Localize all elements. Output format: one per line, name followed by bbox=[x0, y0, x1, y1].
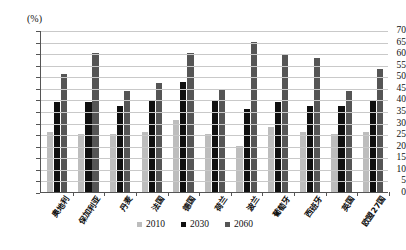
gridline bbox=[41, 31, 388, 32]
y-axis-tick-label: 65 bbox=[366, 38, 406, 48]
bar-2030 bbox=[117, 106, 123, 192]
y-axis-tick-mark bbox=[36, 89, 40, 90]
y-axis-tick-label: 55 bbox=[366, 61, 406, 71]
y-axis-tick-label: 5 bbox=[366, 176, 406, 186]
legend-swatch-icon bbox=[137, 222, 142, 227]
gridline bbox=[41, 54, 388, 55]
y-axis-tick-label: 35 bbox=[366, 107, 406, 117]
legend-item-2010[interactable]: 2010 bbox=[137, 219, 165, 229]
gridline bbox=[41, 43, 388, 44]
bar-2010 bbox=[300, 132, 306, 192]
bar-2060 bbox=[346, 91, 352, 192]
legend-label: 2060 bbox=[234, 219, 253, 229]
x-axis-label-0: 奥地利 bbox=[51, 195, 72, 220]
plot-area bbox=[40, 31, 388, 193]
y-axis-tick-label: 10 bbox=[366, 165, 406, 175]
y-axis-tick-mark bbox=[36, 54, 40, 55]
legend-label: 2030 bbox=[190, 219, 209, 229]
bar-2060 bbox=[219, 90, 225, 192]
x-axis-label-6: 波兰 bbox=[245, 195, 261, 213]
y-axis-tick-label: 70 bbox=[366, 26, 406, 36]
gridline bbox=[41, 170, 388, 171]
y-axis-tick-label: 40 bbox=[366, 95, 406, 105]
gridline bbox=[41, 181, 388, 182]
bar-2060 bbox=[124, 91, 130, 192]
y-axis-tick-mark bbox=[36, 77, 40, 78]
x-axis-label-1: 保加利亚 bbox=[78, 195, 103, 226]
gridline bbox=[41, 77, 388, 78]
x-axis-label-7: 葡萄牙 bbox=[272, 195, 293, 220]
y-axis-tick-mark bbox=[36, 135, 40, 136]
x-axis-label-4: 德国 bbox=[182, 195, 198, 213]
y-axis-tick-mark bbox=[36, 112, 40, 113]
x-axis-label-5: 荷兰 bbox=[214, 195, 230, 213]
bar-chart: (%) 0510152025303540455055606570 奥地利保加利亚… bbox=[0, 0, 406, 250]
gridline bbox=[41, 124, 388, 125]
y-axis-tick-mark bbox=[36, 66, 40, 67]
gridline bbox=[41, 89, 388, 90]
gridline bbox=[41, 135, 388, 136]
bar-2030 bbox=[180, 82, 186, 192]
y-axis-tick-mark bbox=[36, 31, 40, 32]
legend-swatch-icon bbox=[225, 222, 230, 227]
bar-2010 bbox=[110, 134, 116, 192]
gridline bbox=[41, 158, 388, 159]
y-axis-tick-mark bbox=[36, 100, 40, 101]
y-axis-tick-label: 50 bbox=[366, 72, 406, 82]
bar-2010 bbox=[47, 132, 53, 192]
bar-2010 bbox=[205, 134, 211, 192]
bar-2030 bbox=[338, 106, 344, 192]
y-axis-tick-mark bbox=[36, 158, 40, 159]
legend-label: 2010 bbox=[146, 219, 165, 229]
bar-2010 bbox=[142, 132, 148, 192]
y-axis-tick-label: 20 bbox=[366, 142, 406, 152]
x-axis-label-8: 西班牙 bbox=[304, 195, 325, 220]
legend-item-2060[interactable]: 2060 bbox=[225, 219, 253, 229]
y-axis-tick-mark bbox=[36, 124, 40, 125]
x-axis-label-10: 欧盟27国 bbox=[361, 195, 388, 229]
y-axis-tick-mark bbox=[36, 43, 40, 44]
gridline bbox=[41, 147, 388, 148]
bar-2030 bbox=[307, 106, 313, 192]
y-axis-tick-label: 30 bbox=[366, 119, 406, 129]
bar-2030 bbox=[244, 109, 250, 192]
x-axis-label-9: 英国 bbox=[340, 195, 356, 213]
legend-item-2030[interactable]: 2030 bbox=[181, 219, 209, 229]
gridline bbox=[41, 112, 388, 113]
y-axis-tick-label: 45 bbox=[366, 84, 406, 94]
y-axis-tick-mark bbox=[36, 181, 40, 182]
y-axis-tick-mark bbox=[36, 147, 40, 148]
gridline bbox=[41, 66, 388, 67]
bar-2010 bbox=[78, 134, 84, 192]
y-axis-tick-label: 25 bbox=[366, 130, 406, 140]
bar-2010 bbox=[331, 134, 337, 192]
y-axis-tick-label: 60 bbox=[366, 49, 406, 59]
chart-legend: 201020302060 bbox=[137, 219, 253, 229]
legend-swatch-icon bbox=[181, 222, 186, 227]
y-axis-tick-mark bbox=[36, 170, 40, 171]
x-axis-label-3: 法国 bbox=[151, 195, 167, 213]
gridline bbox=[41, 100, 388, 101]
y-axis-tick-mark bbox=[36, 193, 40, 194]
x-axis-label-2: 丹麦 bbox=[119, 195, 135, 213]
y-axis-tick-label: 15 bbox=[366, 153, 406, 163]
y-axis-unit-label: (%) bbox=[27, 13, 42, 24]
bar-2060 bbox=[61, 74, 67, 192]
